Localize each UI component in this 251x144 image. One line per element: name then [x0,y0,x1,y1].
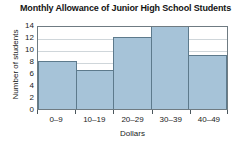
histogram-figure: Monthly Allowance of Junior High School … [0,0,251,144]
y-tick-label: 12 [20,34,34,42]
x-tick-label: 0–9 [37,115,75,127]
x-tick-mark [190,110,191,114]
bar [188,55,227,109]
y-tick-label: 2 [20,94,34,102]
x-axis-tick-marks [37,110,228,114]
bar-series [38,27,227,109]
x-axis-tick-labels: 0–910–1920–2930–3940–49 [37,115,228,127]
x-tick-mark [37,110,38,114]
y-tick-label: 6 [20,70,34,78]
x-tick-label: 10–19 [75,115,113,127]
bar [38,61,77,109]
x-tick-mark [152,110,153,114]
y-axis-tick-labels: 02468101214 [20,22,34,110]
chart-title: Monthly Allowance of Junior High School … [0,3,251,14]
x-tick-mark [227,110,228,114]
bar [113,37,152,109]
x-tick-mark [113,110,114,114]
x-tick-label: 30–39 [152,115,190,127]
x-tick-label: 40–49 [190,115,228,127]
y-tick-label: 14 [20,22,34,30]
y-tick-label: 4 [20,82,34,90]
x-tick-label: 20–29 [113,115,151,127]
bar [76,70,115,109]
plot-area [37,26,228,110]
x-axis-label: Dollars [37,129,228,138]
y-axis-label: Number of students [11,19,20,111]
x-tick-mark [75,110,76,114]
y-tick-label: 8 [20,58,34,66]
y-tick-label: 0 [20,106,34,114]
bar [151,26,190,109]
y-tick-label: 10 [20,46,34,54]
